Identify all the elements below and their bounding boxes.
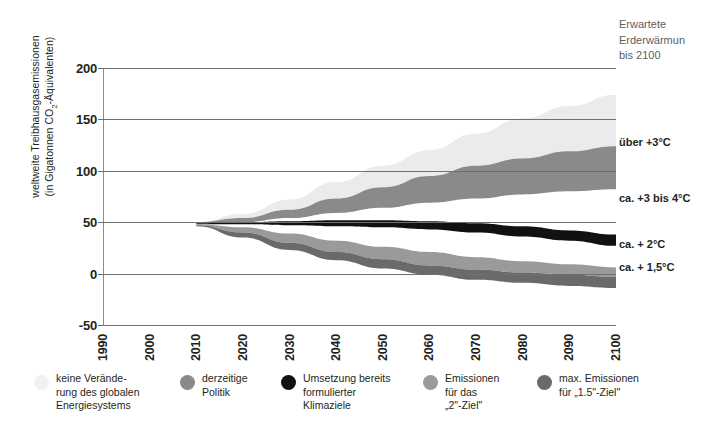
y-axis-tick-label: 0	[90, 266, 97, 281]
y-axis-title-line1: weltweite Treibhausgasemissionen	[28, 0, 42, 242]
x-axis-tick-label: 2070	[469, 334, 483, 361]
y-axis-tick	[98, 222, 103, 223]
y-axis-tick-label: 150	[76, 112, 97, 127]
y-axis-title-subscript: 2	[50, 104, 59, 108]
y-axis-title: weltweite Treibhausgasemissionen (in Gig…	[28, 0, 61, 242]
legend-swatch-icon	[281, 375, 296, 390]
y-axis-title-line2-pre: (in Gigatonnen CO	[43, 109, 55, 197]
warming-annotation-header: ErwarteteErderwärmunbis 2100	[619, 17, 685, 64]
y-axis-tick	[98, 68, 103, 69]
gridline	[103, 171, 616, 172]
legend-label: Umsetzung bereits formulierter Klimaziel…	[303, 372, 413, 413]
warming-header-line: Erderwärmun	[619, 33, 685, 49]
legend-item[interactable]: Umsetzung bereits formulierter Klimaziel…	[281, 372, 413, 413]
warming-annotation: ca. + 1,5°C	[619, 261, 674, 273]
x-axis-tick-label: 2000	[143, 334, 157, 361]
legend-item[interactable]: derzeitige Politik	[180, 372, 282, 399]
gridline	[103, 68, 616, 69]
legend-item[interactable]: keine Verände- rung des globalen Energie…	[34, 372, 166, 413]
warming-header-line: bis 2100	[619, 48, 685, 64]
y-axis-tick	[98, 274, 103, 275]
y-axis-tick	[98, 119, 103, 120]
x-axis-tick-label: 2030	[283, 334, 297, 361]
y-axis-tick-label: 200	[76, 61, 97, 76]
warming-annotation: ca. + 2°C	[619, 238, 665, 250]
y-axis-tick-label: 100	[76, 163, 97, 178]
x-axis-tick-label: 2010	[189, 334, 203, 361]
gridline	[103, 119, 616, 120]
y-axis-tick-label: -50	[79, 318, 97, 333]
emissions-scenario-chart: weltweite Treibhausgasemissionen (in Gig…	[0, 0, 725, 445]
x-axis-tick-label: 2020	[236, 334, 250, 361]
legend-swatch-icon	[423, 375, 438, 390]
gridline	[103, 274, 616, 275]
legend-swatch-icon	[180, 375, 195, 390]
y-axis-title-line2: (in Gigatonnen CO2-Äquivalenten)	[42, 0, 61, 242]
legend-item[interactable]: Emissionen für das „2"-Ziel"	[423, 372, 540, 413]
y-axis-title-line2-post: -Äquivalenten)	[43, 37, 55, 105]
legend-swatch-icon	[34, 375, 49, 390]
y-axis-tick	[98, 171, 103, 172]
legend-label: max. Emissionen für „1.5"-Ziel"	[559, 372, 679, 399]
x-axis-tick-label: 2060	[422, 334, 436, 361]
scenario-bands	[103, 68, 616, 325]
x-axis-tick-label: 2050	[376, 334, 390, 361]
legend-item[interactable]: max. Emissionen für „1.5"-Ziel"	[537, 372, 679, 399]
legend-label: Emissionen für das „2"-Ziel"	[445, 372, 540, 413]
x-axis-tick-label: 2040	[329, 334, 343, 361]
x-axis-tick-label: 2080	[516, 334, 530, 361]
warming-header-line: Erwartete	[619, 17, 685, 33]
gridline	[103, 222, 616, 223]
legend-label: keine Verände- rung des globalen Energie…	[56, 372, 166, 413]
y-axis-tick	[98, 325, 103, 326]
y-axis-tick-label: 50	[83, 215, 97, 230]
chart-legend: keine Verände- rung des globalen Energie…	[34, 372, 714, 432]
warming-annotation: über +3°C	[619, 136, 671, 148]
legend-label: derzeitige Politik	[202, 372, 282, 399]
legend-swatch-icon	[537, 375, 552, 390]
warming-annotation: ca. +3 bis 4°C	[619, 192, 690, 204]
gridline	[103, 325, 616, 326]
x-axis-tick-label: 2100	[609, 334, 623, 361]
x-axis-tick-label: 2090	[562, 334, 576, 361]
x-axis-tick-label: 1990	[96, 334, 110, 361]
plot-area: 200150100500-501990200020102020203020402…	[103, 68, 616, 325]
